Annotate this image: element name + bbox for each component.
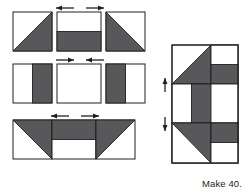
press-arrow-right — [86, 5, 104, 10]
unit-split-rectangle-dark-left — [106, 64, 145, 103]
unit-split-rectangle-dark-right — [13, 64, 52, 103]
exploded-row-3 — [13, 113, 135, 159]
unit-half-square-triangle-dark-upper-right — [96, 120, 135, 159]
unit-half-square-triangle-dark-lower-left — [106, 12, 145, 51]
unit-plain-light-square — [57, 64, 101, 103]
press-arrow-left — [86, 57, 104, 62]
press-arrow-right — [81, 113, 99, 118]
block-cell-bottom-right — [211, 123, 238, 163]
press-arrow-left — [51, 113, 69, 118]
exploded-row-2 — [13, 57, 145, 103]
block-cell-middle — [172, 84, 238, 123]
make-count-caption: Make 40. — [202, 178, 242, 189]
press-arrow-right — [56, 57, 74, 62]
unit-half-rectangle-dark-top — [52, 120, 96, 159]
press-arrow-left — [56, 5, 74, 10]
exploded-row-1 — [13, 5, 145, 51]
row-seam-arrow-lower — [163, 117, 168, 131]
assembled-block — [163, 45, 239, 163]
unit-half-rectangle-dark-bottom — [57, 12, 101, 51]
unit-half-square-triangle-dark-lower-right — [13, 12, 52, 51]
block-cell-top-right — [211, 45, 238, 84]
row-seam-arrow-upper — [163, 78, 168, 92]
block-cell-bottom-left — [172, 123, 211, 163]
unit-half-square-triangle-dark-upper-left — [13, 120, 52, 159]
diagram-canvas — [0, 0, 248, 193]
